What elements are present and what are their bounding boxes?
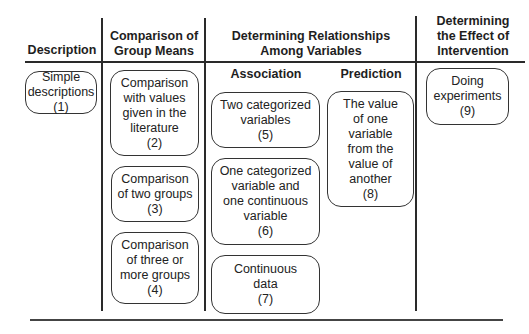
subheader-prediction: Prediction [327,67,415,82]
header-effect-of-intervention: Determining the Effect of Intervention [417,14,529,59]
box-comparison-with-literature: Comparison with values given in the lite… [110,70,199,156]
header-description: Description [22,43,102,58]
box-simple-descriptions: Simple descriptions (1) [25,71,97,114]
box-two-categorized-variables: Two categorized variables (5) [211,92,320,148]
bottom-rule [30,319,503,321]
box-comparison-two-groups: Comparison of two groups (3) [111,166,199,222]
box-categorized-and-continuous: One categorized variable and one continu… [211,158,320,245]
box-prediction-value: The value of one variable from the value… [327,91,414,207]
box-doing-experiments: Doing experiments (9) [426,68,509,125]
header-determining-relationships: Determining Relationships Among Variable… [206,29,416,59]
header-rule [25,61,525,63]
box-comparison-three-or-more-groups: Comparison of three or more groups (4) [111,232,199,304]
box-continuous-data: Continuous data (7) [211,255,320,314]
header-comparison-group-means: Comparison of Group Means [104,29,204,59]
subheader-association: Association [211,67,321,82]
